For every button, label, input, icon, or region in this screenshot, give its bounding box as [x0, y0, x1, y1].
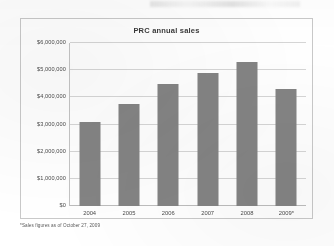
x-axis-tick-label: 2009* [279, 210, 294, 216]
bar-group: 2009* [267, 43, 306, 206]
y-axis-tick-label: $5,000,000 [37, 66, 66, 72]
y-axis-tick-label: $2,000,000 [37, 148, 66, 154]
bar-group: 2007 [188, 43, 227, 206]
bar-group: 2006 [149, 43, 188, 206]
chart-footnote: *Sales figures as of October 27, 2009 [20, 223, 100, 228]
bar-group: 2005 [109, 43, 148, 206]
bar-group: 2004 [70, 43, 109, 206]
x-axis-tick-label: 2005 [123, 210, 136, 216]
bar-group: 2008 [227, 43, 266, 206]
x-axis-tick-label: 2008 [241, 210, 254, 216]
bar-series: 200420052006200720082009* [70, 43, 306, 206]
y-axis-tick-label: $1,000,000 [37, 175, 66, 181]
chart-container: PRC annual sales $6,000,000$5,000,000$4,… [20, 18, 313, 219]
bar [79, 122, 100, 206]
y-axis-tick-label: $6,000,000 [37, 39, 66, 45]
x-axis-tick-label: 2006 [162, 210, 175, 216]
plot-area: $6,000,000$5,000,000$4,000,000$3,000,000… [70, 43, 306, 206]
y-axis-tick-label: $3,000,000 [37, 121, 66, 127]
y-axis-tick-label: $4,000,000 [37, 93, 66, 99]
bar [197, 73, 218, 206]
x-axis-tick-label: 2007 [201, 210, 214, 216]
x-axis-tick-label: 2004 [83, 210, 96, 216]
y-axis-tick-label: $0 [60, 202, 66, 208]
chart-title: PRC annual sales [21, 26, 312, 35]
scan-artifact [150, 1, 300, 7]
bar [236, 62, 257, 206]
bar [276, 89, 297, 206]
bar [158, 84, 179, 206]
bar [118, 104, 139, 206]
